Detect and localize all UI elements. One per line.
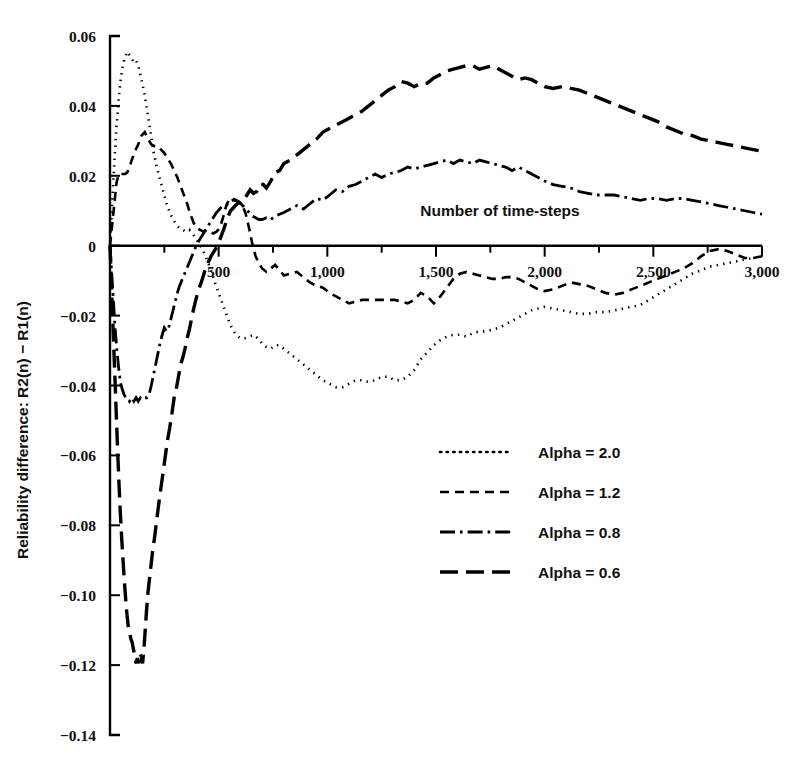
y-tick-label: −0.02 [60, 308, 96, 325]
y-tick-label: −0.04 [60, 378, 96, 395]
legend-label-1: Alpha = 1.2 [538, 484, 620, 501]
x-tick-label: 2,000 [527, 263, 562, 280]
y-tick-label: −0.10 [60, 587, 96, 604]
y-tick-label: −0.08 [60, 517, 96, 534]
x-axis-title: Number of time-steps [420, 202, 579, 219]
y-tick-label: −0.14 [60, 727, 96, 744]
y-tick-label: −0.06 [60, 447, 96, 464]
legend-label-3: Alpha = 0.6 [538, 564, 621, 581]
y-tick-label: 0.04 [69, 98, 96, 115]
x-tick-label: 1,000 [310, 263, 345, 280]
x-tick-label: 2,500 [636, 263, 671, 280]
legend-label-2: Alpha = 0.8 [538, 524, 621, 541]
x-tick-label: 3,000 [745, 263, 780, 280]
legend-label-0: Alpha = 2.0 [538, 444, 620, 461]
reliability-difference-chart: 0.060.040.020−0.02−0.04−0.06−0.08−0.10−0… [0, 0, 799, 771]
y-tick-label: 0 [88, 238, 96, 255]
y-tick-label: 0.06 [69, 28, 96, 45]
y-axis-title: Reliability difference: R2(n) − R1(n) [14, 301, 31, 559]
x-tick-label: 1,500 [419, 263, 454, 280]
y-tick-label: 0.02 [69, 168, 96, 185]
y-tick-label: −0.12 [60, 657, 96, 674]
